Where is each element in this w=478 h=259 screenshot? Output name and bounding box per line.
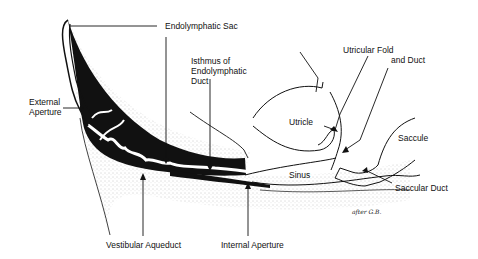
label-sinus: Sinus bbox=[289, 170, 310, 180]
label-isthmus-line1: Isthmus of bbox=[191, 56, 230, 66]
label-internal-aperture: Internal Aperture bbox=[221, 240, 284, 250]
artist-signature: after G.B. bbox=[352, 208, 381, 215]
label-saccule: Saccule bbox=[398, 133, 428, 143]
label-external-aperture-line2: Aperture bbox=[29, 107, 62, 117]
label-external-aperture-line1: External bbox=[29, 97, 60, 107]
label-utricle: Utricle bbox=[289, 117, 313, 127]
label-vestibular-aqueduct: Vestibular Aqueduct bbox=[106, 240, 181, 250]
label-isthmus-line3: Duct bbox=[191, 76, 208, 86]
anatomy-diagram: Endolymphatic Sac Isthmus of Endolymphat… bbox=[0, 0, 478, 259]
label-saccular-duct: Saccular Duct bbox=[395, 183, 448, 193]
label-isthmus-line2: Endolymphatic bbox=[191, 66, 247, 76]
label-utricular-fold-line1: Utricular Fold bbox=[343, 45, 394, 55]
label-utricular-fold-line2: and Duct bbox=[391, 55, 425, 65]
diagram-drawing bbox=[0, 0, 478, 259]
label-endolymphatic-sac: Endolymphatic Sac bbox=[165, 21, 238, 31]
